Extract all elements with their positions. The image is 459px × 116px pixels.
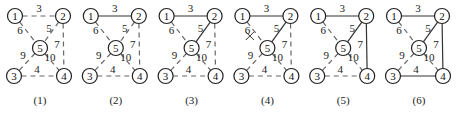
edge-2-4 bbox=[215, 23, 216, 68]
node-5: 5 bbox=[33, 41, 48, 56]
edge-weight-label: 6 bbox=[320, 24, 326, 36]
svg-text:3: 3 bbox=[239, 70, 245, 82]
edge-weight-label: 4 bbox=[413, 63, 419, 75]
edge-weight-label: 9 bbox=[20, 49, 26, 61]
edge-weight-label: 3 bbox=[339, 2, 345, 14]
node-1: 1 bbox=[159, 9, 174, 24]
svg-text:5: 5 bbox=[37, 42, 43, 54]
svg-text:2: 2 bbox=[288, 10, 294, 22]
edge-weight-label: 5 bbox=[349, 22, 355, 34]
svg-text:1: 1 bbox=[164, 10, 170, 22]
node-2: 2 bbox=[283, 9, 298, 24]
edge-weight-label: 4 bbox=[110, 63, 116, 75]
edge-weight-label: 3 bbox=[264, 2, 270, 14]
panel-caption: (1) bbox=[34, 94, 47, 107]
panel-caption: (2) bbox=[109, 94, 122, 107]
edge-2-4 bbox=[139, 23, 140, 68]
edge-weight-label: 6 bbox=[396, 24, 402, 36]
svg-text:5: 5 bbox=[265, 42, 271, 54]
node-4: 4 bbox=[57, 69, 72, 84]
node-5: 5 bbox=[108, 41, 123, 56]
graph-panel-3: 3657910412534(3) bbox=[158, 2, 223, 107]
svg-text:3: 3 bbox=[390, 70, 396, 82]
edge-2-4 bbox=[63, 23, 64, 68]
node-3: 3 bbox=[310, 69, 325, 84]
panel-caption: (5) bbox=[337, 94, 350, 107]
panel-caption: (6) bbox=[413, 94, 426, 107]
edge-weight-label: 7 bbox=[282, 38, 288, 50]
svg-text:1: 1 bbox=[88, 10, 94, 22]
node-1: 1 bbox=[311, 9, 326, 24]
edge-weight-label: 7 bbox=[433, 38, 439, 50]
edge-weight-label: 5 bbox=[46, 22, 52, 34]
edge-weight-label: 5 bbox=[198, 22, 204, 34]
edge-weight-label: 3 bbox=[36, 2, 42, 14]
node-4: 4 bbox=[436, 69, 451, 84]
edge-2-4 bbox=[442, 23, 443, 68]
edge-weight-label: 5 bbox=[274, 22, 280, 34]
graph-panel-6: 3657910412534(6) bbox=[386, 2, 451, 107]
node-4: 4 bbox=[132, 69, 147, 84]
edge-weight-label: 9 bbox=[399, 49, 405, 61]
node-1: 1 bbox=[235, 9, 250, 24]
node-5: 5 bbox=[412, 41, 427, 56]
node-3: 3 bbox=[82, 69, 97, 84]
panel-caption: (3) bbox=[185, 94, 198, 107]
edge-weight-label: 3 bbox=[415, 2, 421, 14]
node-2: 2 bbox=[131, 9, 146, 24]
edge-weight-label: 9 bbox=[172, 49, 178, 61]
svg-text:5: 5 bbox=[340, 42, 346, 54]
svg-text:5: 5 bbox=[416, 42, 422, 54]
graph-panel-5: 3657910412534(5) bbox=[310, 2, 375, 107]
edge-weight-label: 9 bbox=[323, 49, 329, 61]
node-4: 4 bbox=[284, 69, 299, 84]
edge-weight-label: 6 bbox=[93, 24, 99, 36]
panel-caption: (4) bbox=[261, 94, 274, 107]
svg-text:4: 4 bbox=[440, 70, 446, 82]
node-2: 2 bbox=[56, 9, 71, 24]
edge-weight-label: 9 bbox=[248, 49, 254, 61]
node-4: 4 bbox=[208, 69, 223, 84]
graph-panel-1: 3657910412534(1) bbox=[7, 2, 72, 107]
node-1: 1 bbox=[387, 9, 402, 24]
svg-text:2: 2 bbox=[439, 10, 445, 22]
svg-text:2: 2 bbox=[60, 10, 66, 22]
node-3: 3 bbox=[158, 69, 173, 84]
node-5: 5 bbox=[336, 41, 351, 56]
edge-weight-label: 5 bbox=[425, 22, 431, 34]
edge-weight-label: 7 bbox=[357, 38, 363, 50]
svg-text:4: 4 bbox=[61, 70, 67, 82]
svg-text:3: 3 bbox=[11, 70, 17, 82]
graph-panel-2: 3657910412534(2) bbox=[82, 2, 147, 107]
edge-weight-label: 6 bbox=[17, 24, 23, 36]
svg-text:2: 2 bbox=[212, 10, 218, 22]
node-1: 1 bbox=[83, 9, 98, 24]
svg-text:4: 4 bbox=[364, 70, 370, 82]
node-2: 2 bbox=[207, 9, 222, 24]
node-2: 2 bbox=[435, 9, 450, 24]
node-5: 5 bbox=[260, 41, 275, 56]
svg-text:1: 1 bbox=[315, 10, 321, 22]
svg-text:5: 5 bbox=[113, 42, 119, 54]
node-2: 2 bbox=[359, 9, 374, 24]
node-5: 5 bbox=[184, 41, 199, 56]
node-3: 3 bbox=[7, 69, 22, 84]
edge-weight-label: 3 bbox=[188, 2, 194, 14]
svg-text:1: 1 bbox=[391, 10, 397, 22]
edge-weight-label: 4 bbox=[337, 63, 343, 75]
edge-weight-label: 5 bbox=[122, 22, 128, 34]
svg-text:1: 1 bbox=[240, 10, 246, 22]
edge-weight-label: 7 bbox=[206, 38, 212, 50]
graph-panel-4: 3657910412534(4) bbox=[234, 2, 299, 107]
edge-weight-label: 3 bbox=[112, 2, 118, 14]
svg-text:2: 2 bbox=[136, 10, 142, 22]
svg-text:3: 3 bbox=[163, 70, 169, 82]
edge-weight-label: 7 bbox=[130, 38, 136, 50]
svg-text:3: 3 bbox=[87, 70, 93, 82]
svg-text:4: 4 bbox=[213, 70, 219, 82]
svg-text:4: 4 bbox=[137, 70, 143, 82]
svg-text:3: 3 bbox=[314, 70, 320, 82]
node-3: 3 bbox=[234, 69, 249, 84]
edge-weight-label: 4 bbox=[186, 63, 192, 75]
svg-text:1: 1 bbox=[12, 10, 18, 22]
